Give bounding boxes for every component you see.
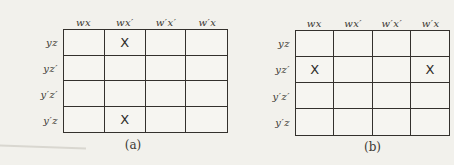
column-header: wx: [295, 19, 334, 29]
row-header: y′z: [272, 110, 293, 137]
kmap-cell: [373, 83, 411, 109]
kmap-a-caption: (a): [63, 138, 203, 152]
kmap-cell: [411, 83, 449, 109]
kmap-b-caption: (b): [295, 140, 450, 154]
kmap-b-column-headers: wx wx′ w′x′ w′x: [295, 17, 450, 30]
kmap-cell: [186, 107, 227, 133]
kmap-cell: X: [296, 57, 334, 83]
kmap-cell: [105, 81, 146, 107]
kmap-cell: [146, 81, 187, 107]
row-header: yz: [272, 30, 293, 57]
kmap-cell: [296, 109, 334, 135]
kmap-cell: [334, 31, 372, 57]
kmap-cell: [373, 109, 411, 135]
kmap-cell: X: [105, 107, 146, 133]
kmap-a-column-headers: wx wx′ w′x′ w′x: [63, 16, 228, 29]
kmap-cell: [105, 56, 146, 82]
row-header: y′z′: [40, 81, 61, 107]
kmap-b: wx wx′ w′x′ w′x yz yz′ y′z′ y′z X X (b): [272, 16, 454, 165]
kmap-cell: [146, 30, 187, 56]
column-header: wx′: [104, 18, 145, 28]
kmap-cell: [146, 107, 187, 133]
kmap-cell: [334, 109, 372, 135]
kmap-a-row-headers: yz yz′ y′z′ y′z: [40, 29, 61, 133]
column-header: w′x′: [373, 19, 412, 29]
kmap-b-grid: X X: [295, 30, 450, 136]
kmap-cell: [64, 107, 105, 133]
kmap-cell: [373, 31, 411, 57]
kmap-cell: [146, 56, 187, 82]
kmap-cell: [411, 31, 449, 57]
kmap-cell: [411, 109, 449, 135]
column-header: w′x: [411, 19, 450, 29]
row-header: yz′: [272, 57, 293, 84]
row-header: y′z′: [272, 83, 293, 110]
kmap-cell: [186, 30, 227, 56]
kmap-cell: X: [105, 30, 146, 56]
kmap-cell: [186, 56, 227, 82]
kmap-cell: [373, 57, 411, 83]
kmap-cell: [64, 81, 105, 107]
row-header: yz′: [40, 55, 61, 81]
column-header: w′x: [187, 18, 228, 28]
kmap-cell: [334, 57, 372, 83]
kmap-cell: X: [411, 57, 449, 83]
kmap-a: wx wx′ w′x′ w′x yz yz′ y′z′ y′z X X (a): [40, 16, 250, 165]
kmap-b-row-headers: yz yz′ y′z′ y′z: [272, 30, 293, 136]
kmap-cell: [296, 31, 334, 57]
kmap-cell: [296, 83, 334, 109]
kmap-cell: [186, 81, 227, 107]
kmap-a-grid: X X: [63, 29, 228, 133]
kmap-cell: [64, 30, 105, 56]
row-header: yz: [40, 29, 61, 55]
kmap-cell: [64, 56, 105, 82]
column-header: wx: [63, 18, 104, 28]
row-header: y′z: [40, 107, 61, 133]
column-header: wx′: [334, 19, 373, 29]
kmap-cell: [334, 83, 372, 109]
column-header: w′x′: [146, 18, 187, 28]
